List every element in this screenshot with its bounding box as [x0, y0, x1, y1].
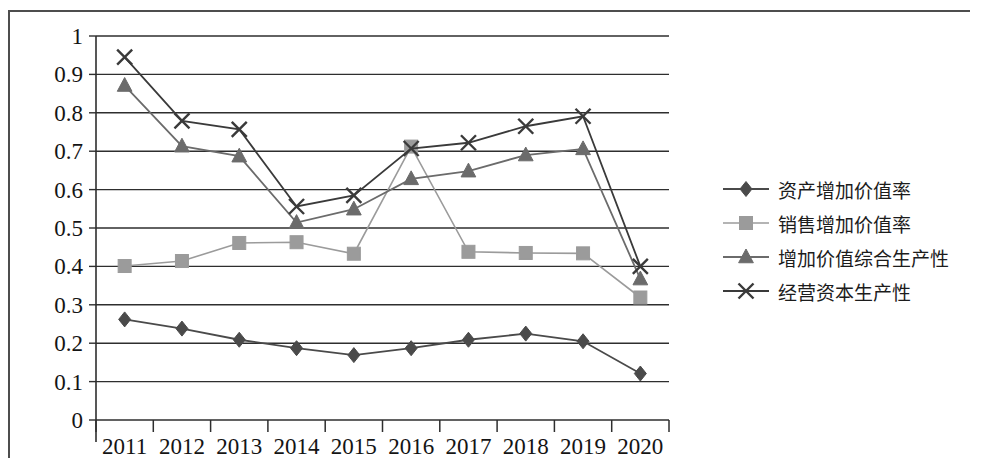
data-point-diamond [176, 321, 188, 336]
legend-item[interactable]: 增加价值综合生产性 [722, 240, 977, 274]
data-point-triangle [576, 141, 591, 155]
legend-marker-square-icon [722, 213, 770, 233]
y-axis-tick-label: 0.1 [54, 370, 83, 395]
x-axis-tick-label: 2019 [560, 434, 606, 459]
legend-marker-diamond-icon [722, 179, 770, 199]
data-point-square [634, 291, 647, 304]
x-axis-tick-label: 2015 [331, 434, 377, 459]
data-point-square [462, 245, 475, 258]
data-point-square [519, 246, 532, 259]
legend-item-label: 资产增加价值率 [778, 176, 911, 203]
data-point-diamond [577, 334, 589, 349]
y-axis-tick-label: 0.5 [54, 216, 83, 241]
data-point-triangle [117, 78, 132, 92]
legend-item-label: 增加价值综合生产性 [778, 244, 949, 271]
legend-marker-cross-icon [722, 281, 770, 301]
data-point-diamond [233, 332, 245, 347]
x-axis: 2011201220132014201520162017201820192020 [96, 420, 669, 459]
legend-item[interactable]: 经营资本生产性 [722, 274, 977, 308]
x-axis-tick-label: 2018 [503, 434, 549, 459]
x-axis-tick-label: 2016 [388, 434, 434, 459]
chart-legend: 资产增加价值率销售增加价值率增加价值综合生产性经营资本生产性 [722, 172, 977, 308]
data-point-square [233, 236, 246, 249]
data-point-diamond [119, 312, 131, 327]
legend-marker-triangle-icon [722, 247, 770, 267]
data-point-diamond [634, 366, 646, 381]
series-line [125, 147, 641, 298]
legend-marker [740, 182, 752, 197]
legend-marker [740, 217, 753, 230]
series-line [125, 86, 641, 280]
y-axis-tick-label: 1 [72, 24, 84, 49]
data-point-diamond [348, 348, 360, 363]
x-axis-tick-label: 2013 [216, 434, 262, 459]
y-axis-tick-label: 0.8 [54, 101, 83, 126]
series-square [118, 140, 647, 304]
series-line [125, 319, 641, 373]
data-point-diamond [520, 326, 532, 341]
y-axis-tick-label: 0.7 [54, 139, 83, 164]
x-axis-tick-label: 2017 [445, 434, 491, 459]
y-axis-tick-label: 0 [72, 408, 84, 433]
x-axis-tick-label: 2014 [274, 434, 321, 459]
y-gridlines: 10.90.80.70.60.50.40.30.20.10 [54, 24, 669, 433]
y-axis-tick-label: 0.6 [54, 178, 83, 203]
series-line [125, 57, 641, 266]
legend-item[interactable]: 资产增加价值率 [722, 172, 977, 206]
data-point-square [577, 247, 590, 260]
legend-item-label: 经营资本生产性 [778, 278, 911, 305]
y-axis-tick-label: 0.9 [54, 62, 83, 87]
legend-item-label: 销售增加价值率 [778, 210, 911, 237]
legend-marker [739, 249, 754, 263]
x-axis-tick-label: 2020 [617, 434, 663, 459]
legend-item[interactable]: 销售增加价值率 [722, 206, 977, 240]
series-cross [117, 50, 648, 274]
series-diamond [119, 312, 647, 381]
y-axis-tick-label: 0.4 [54, 254, 83, 279]
data-point-diamond [462, 332, 474, 347]
x-axis-tick-label: 2012 [159, 434, 205, 459]
data-point-square [290, 236, 303, 249]
data-point-square [347, 247, 360, 260]
data-point-triangle [346, 201, 361, 215]
x-axis-tick-label: 2011 [102, 434, 147, 459]
chart-page: 10.90.80.70.60.50.40.30.20.1020112012201… [0, 0, 984, 462]
y-axis-tick-label: 0.3 [54, 293, 83, 318]
y-axis-tick-label: 0.2 [54, 331, 83, 356]
data-point-square [118, 260, 131, 273]
data-point-square [175, 255, 188, 268]
